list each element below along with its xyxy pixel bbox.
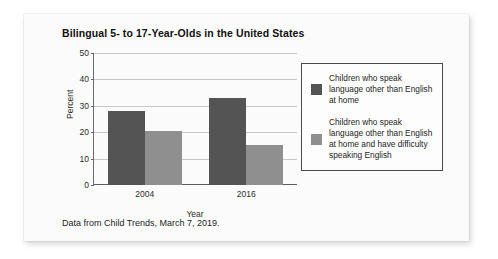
bar <box>145 131 182 185</box>
legend-swatch-icon <box>311 84 322 95</box>
chart-title: Bilingual 5- to 17-Year-Olds in the Unit… <box>62 27 304 39</box>
chart-figure: Bilingual 5- to 17-Year-Olds in the Unit… <box>24 14 469 241</box>
y-tick-mark <box>91 53 94 54</box>
legend-item: Children who speak language other than E… <box>311 73 435 107</box>
y-tick-mark <box>91 79 94 80</box>
y-tick-label: 0 <box>84 180 89 190</box>
chart-legend: Children who speak language other than E… <box>301 63 443 171</box>
bar <box>246 145 283 185</box>
bar <box>209 98 246 185</box>
legend-label: Children who speak language other than E… <box>329 117 435 162</box>
source-note: Data from Child Trends, March 7, 2019. <box>62 218 220 228</box>
legend-label: Children who speak language other than E… <box>329 73 435 107</box>
y-axis-label: Percent <box>65 90 75 119</box>
gridline <box>94 53 297 54</box>
gridline <box>94 106 297 107</box>
x-tick-label: 2004 <box>135 189 154 199</box>
legend-swatch-icon <box>311 134 322 145</box>
y-tick-label: 20 <box>80 127 89 137</box>
y-tick-label: 40 <box>80 74 89 84</box>
y-tick-label: 50 <box>80 48 89 58</box>
y-tick-label: 10 <box>80 154 89 164</box>
x-tick-label: 2016 <box>237 189 256 199</box>
screenshot-root: Bilingual 5- to 17-Year-Olds in the Unit… <box>0 0 498 259</box>
plot-area: 0102030405020042016 <box>93 53 297 185</box>
y-tick-mark <box>91 106 94 107</box>
y-tick-mark <box>91 159 94 160</box>
bar <box>108 111 145 185</box>
y-tick-label: 30 <box>80 101 89 111</box>
y-tick-mark <box>91 185 94 186</box>
legend-item: Children who speak language other than E… <box>311 117 435 162</box>
gridline <box>94 79 297 80</box>
document-card: Bilingual 5- to 17-Year-Olds in the Unit… <box>24 14 469 241</box>
y-tick-mark <box>91 132 94 133</box>
